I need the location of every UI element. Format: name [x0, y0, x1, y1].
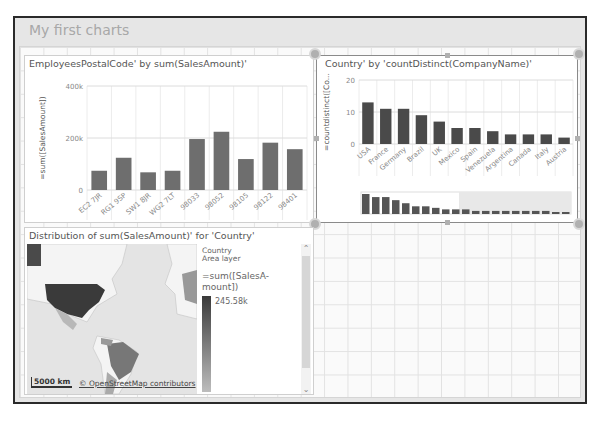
bar	[487, 131, 498, 144]
country-bar-chart-panel[interactable]: Country' by 'countDistinct(CompanyName)'…	[316, 55, 578, 223]
y-tick-label: 10	[346, 109, 355, 117]
bar	[238, 159, 254, 190]
minimap-bar	[532, 211, 540, 214]
minimap-bar	[382, 197, 390, 214]
legend-layer-type: Area layer	[202, 254, 240, 263]
x-tick-label: 98052	[204, 191, 226, 211]
map-area[interactable]: 5000 km © OpenStreetMap contributors	[27, 244, 197, 394]
resize-handle-top[interactable]	[445, 53, 450, 58]
minimap-bar	[432, 208, 440, 214]
minimap-bar	[412, 206, 420, 214]
bar	[287, 149, 303, 190]
minimap-bar	[452, 209, 460, 214]
country-bar-chart: 01020=countdistinct([Co...USAFranceGerma…	[317, 68, 577, 220]
bar	[469, 128, 480, 144]
minimap-bar	[462, 209, 470, 214]
minimap-out-of-view-region	[459, 192, 571, 214]
scroll-up-icon[interactable]: ⌃	[301, 244, 311, 253]
minimap-bar	[552, 212, 560, 214]
y-tick-label: 200k	[66, 135, 84, 143]
legend-max-value: 245.58k	[215, 297, 248, 306]
bar	[91, 171, 107, 190]
panel-title: Distribution of sum(SalesAmount)' for 'C…	[29, 230, 255, 241]
bar	[362, 102, 373, 144]
minimap-bar	[502, 211, 510, 214]
resize-handle-top-right[interactable]	[573, 48, 585, 60]
bar	[451, 128, 462, 144]
legend-color-gradient	[202, 296, 211, 392]
minimap-bar	[402, 203, 410, 214]
bar	[541, 134, 552, 144]
y-axis-label: =countdistinct([Co...	[322, 73, 331, 151]
y-tick-label: 400k	[66, 83, 84, 91]
minimap-bar	[512, 211, 520, 214]
sheet-grid: EmployeesPostalCode' by sum(SalesAmount)…	[19, 46, 581, 398]
sheet-frame: My first charts EmployeesPostalCode' by …	[13, 16, 587, 404]
resize-handle-right[interactable]	[575, 136, 580, 141]
bar	[505, 134, 516, 144]
x-tick-label: WG2 7LT	[148, 191, 177, 217]
y-tick-label: 0	[351, 141, 355, 149]
y-axis-label: =sum([SalesAmount])	[38, 96, 47, 179]
x-tick-label: 98105	[228, 191, 250, 211]
bar	[116, 158, 132, 190]
bar	[165, 171, 181, 190]
map-country-canada	[27, 244, 41, 266]
bar	[214, 132, 230, 190]
x-tick-label: 98401	[277, 191, 299, 211]
minimap-bar	[482, 211, 490, 214]
minimap-bar	[562, 212, 570, 214]
minimap-bar	[442, 209, 450, 214]
bar	[398, 109, 409, 144]
map-shapes	[27, 244, 197, 394]
postal-code-bar-chart-panel[interactable]: EmployeesPostalCode' by sum(SalesAmount)…	[24, 55, 314, 223]
x-tick-label: 98033	[179, 191, 201, 211]
minimap-bar	[422, 206, 430, 214]
bar	[380, 109, 391, 144]
minimap-bar	[542, 211, 550, 214]
resize-handle-bottom-right[interactable]	[573, 218, 585, 230]
minimap-bar	[472, 211, 480, 214]
resize-handle-bottom[interactable]	[445, 220, 450, 225]
x-tick-label: Brazil	[406, 145, 426, 164]
minimap-bar	[492, 211, 500, 214]
map-attribution-link[interactable]: © OpenStreetMap contributors	[79, 379, 196, 388]
resize-handle-left[interactable]	[314, 136, 319, 141]
scroll-down-icon[interactable]: ⌄	[301, 385, 311, 394]
bar	[263, 143, 279, 190]
minimap-bar	[392, 200, 400, 214]
x-tick-label: RG1 9SP	[100, 191, 128, 216]
minimap-bar	[522, 211, 530, 214]
sheet-title: My first charts	[29, 22, 129, 38]
y-tick-label: 20	[346, 77, 355, 85]
bar	[189, 139, 205, 190]
x-tick-label: 98122	[252, 191, 274, 211]
resize-handle-top-left[interactable]	[309, 48, 321, 60]
bar	[523, 134, 534, 144]
legend-scrollbar[interactable]: ⌃ ⌄	[301, 244, 311, 394]
minimap-bar	[362, 194, 370, 214]
legend-measure: =sum([SalesA-mount])	[202, 271, 266, 293]
bar	[558, 138, 569, 144]
postal-code-bar-chart: 0200k400k=sum([SalesAmount])EC2 7JRRG1 9…	[25, 70, 313, 220]
panel-title: EmployeesPostalCode' by sum(SalesAmount)…	[29, 58, 247, 69]
bar	[140, 172, 156, 190]
map-panel[interactable]: Distribution of sum(SalesAmount)' for 'C…	[24, 227, 314, 395]
x-tick-label: UK	[431, 145, 444, 158]
bar	[416, 115, 427, 144]
map-country-usa	[45, 284, 105, 318]
map-legend: Country Area layer =sum([SalesA-mount]) …	[199, 244, 289, 394]
scrollbar-thumb[interactable]	[302, 256, 310, 368]
bar	[434, 122, 445, 144]
y-tick-label: 0	[79, 187, 83, 195]
minimap-bar	[372, 197, 380, 214]
map-scale-bar: 5000 km	[31, 377, 72, 388]
